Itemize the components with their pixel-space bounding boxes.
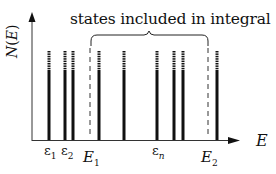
diagram-caption: states included in integral <box>70 10 271 28</box>
tick-label-eps1: ε1 <box>44 143 56 161</box>
energy-levels <box>48 51 219 140</box>
y-axis-label: N(E) <box>4 25 20 58</box>
energy-level-bar <box>216 51 219 140</box>
integration-brace <box>91 31 208 46</box>
tick-label-eps2: ε2 <box>61 143 73 161</box>
energy-level-bar <box>156 51 159 140</box>
x-axis-label: E <box>256 131 268 150</box>
energy-level-bar <box>98 51 101 140</box>
bound-label-E2: E2 <box>201 148 218 168</box>
energy-level-bar <box>72 51 75 140</box>
tick-label-epsn: εn <box>152 143 165 161</box>
energy-level-bar <box>48 51 51 140</box>
energy-level-bar <box>64 51 67 140</box>
energy-level-bar <box>173 51 176 140</box>
energy-level-bar <box>123 51 126 140</box>
bound-label-E1: E1 <box>83 148 100 168</box>
energy-level-bar <box>182 51 185 140</box>
integration-bounds <box>90 48 208 138</box>
x-axis-arrow-icon <box>228 137 240 144</box>
y-axis-arrow-icon <box>29 12 36 22</box>
